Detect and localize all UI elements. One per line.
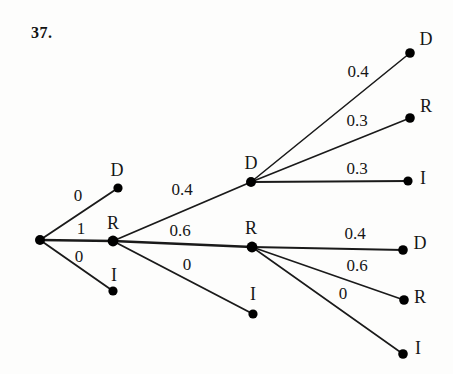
node-label-n3-D-D: D [420,30,433,48]
tree-node-dot [405,48,415,58]
tree-edge [113,241,252,247]
tree-edge [113,241,253,314]
node-label-n1-I: I [111,266,117,284]
node-label-n2-R: R [245,219,257,237]
tree-node-dot [398,245,408,255]
tree-edge [252,247,403,354]
probability-tree-graphic [0,0,453,374]
edge-probability-label: 0 [75,248,84,265]
node-label-n1-R: R [107,214,119,232]
edge-probability-label: 1 [77,220,86,237]
tree-node-dot [403,176,412,185]
tree-node-dot [405,113,415,123]
node-label-n3-R-I: I [415,339,421,357]
tree-node-dot [35,235,45,245]
tree-node-dot [246,177,256,187]
edge-probability-label: 0.4 [347,63,368,80]
node-label-n3-D-I: I [420,169,426,187]
node-label-n3-R-R: R [414,288,426,306]
node-label-n3-R-D: D [414,234,427,252]
node-label-n1-D: D [111,161,124,179]
node-label-n2-I: I [250,285,256,303]
node-label-n2-D: D [245,154,258,172]
node-label-n3-D-R: R [420,97,432,115]
edge-probability-label: 0.4 [171,181,192,198]
tree-edge [251,118,410,182]
tree-node-dot [113,183,122,192]
tree-edge [251,53,410,182]
tree-diagram-page: 37. 0100.40.600.40.30.30.40.60DRIDRIDRID… [0,0,453,374]
tree-node-dot [398,349,408,359]
edge-probability-label: 0 [339,285,348,302]
tree-edge [252,247,404,300]
tree-edges-group [40,53,410,354]
tree-node-dot [108,286,117,295]
edge-probability-label: 0.6 [346,257,367,274]
edge-probability-label: 0.3 [346,160,367,177]
tree-node-dot [399,295,409,305]
edge-probability-label: 0 [183,256,192,273]
tree-node-dot [247,242,258,253]
edge-probability-label: 0.4 [344,225,365,242]
edge-probability-label: 0 [74,187,83,204]
tree-node-dot [248,309,257,318]
tree-edge [252,247,403,250]
edge-probability-label: 0.6 [169,222,190,239]
tree-edge [40,240,113,241]
tree-edge [251,181,408,182]
edge-probability-label: 0.3 [346,112,367,129]
tree-node-dot [108,236,119,247]
